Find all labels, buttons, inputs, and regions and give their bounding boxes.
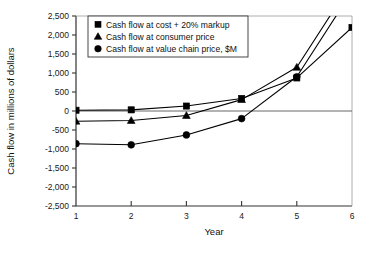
data-point-circle [128, 141, 135, 148]
data-point-square [73, 107, 79, 113]
y-tick-label: 1,000 [48, 68, 70, 78]
chart-legend: Cash flow at cost + 20% markupCash flow … [88, 16, 248, 57]
y-tick-label: -2,500 [45, 201, 69, 211]
x-tick-label: 6 [350, 211, 355, 221]
x-tick-label: 1 [74, 211, 79, 221]
legend-label: Cash flow at value chain price, $M [106, 44, 237, 54]
y-tick-label: 500 [55, 87, 69, 97]
x-tick-label: 4 [239, 211, 244, 221]
y-tick-label: 2,500 [48, 11, 70, 21]
y-tick-label: 0 [64, 106, 69, 116]
cash-flow-line-chart: 2,5002,0001,5001,0005000-500-1,000-1,500… [0, 0, 369, 255]
chart-figure: 2,5002,0001,5001,0005000-500-1,000-1,500… [0, 0, 369, 255]
data-point-circle [293, 73, 300, 80]
data-point-square [128, 107, 134, 113]
data-point-square [349, 24, 355, 30]
x-tick-label: 2 [129, 211, 134, 221]
y-tick-label: 2,000 [48, 30, 70, 40]
y-tick-label: -500 [52, 125, 69, 135]
legend-marker-circle [95, 45, 102, 52]
x-tick-label: 3 [184, 211, 189, 221]
x-axis-title: Year [204, 226, 223, 237]
x-tick-label: 5 [294, 211, 299, 221]
y-axis-title: Cash flow in millions of dollars [5, 47, 16, 174]
data-point-triangle [293, 63, 301, 70]
data-point-square [183, 103, 189, 109]
y-tick-label: 1,500 [48, 49, 70, 59]
data-point-circle [238, 115, 245, 122]
data-point-circle [183, 132, 190, 139]
legend-marker-square [95, 21, 101, 27]
y-tick-label: -1,000 [45, 144, 69, 154]
data-point-circle [73, 140, 80, 147]
legend-label: Cash flow at cost + 20% markup [106, 20, 230, 30]
legend-label: Cash flow at consumer price [106, 32, 215, 42]
y-tick-label: -1,500 [45, 163, 69, 173]
y-tick-label: -2,000 [45, 182, 69, 192]
